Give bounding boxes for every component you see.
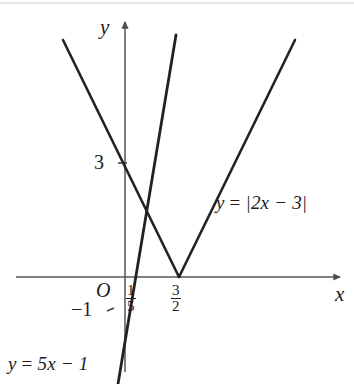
y-tick-label-minus-1: −1: [71, 299, 92, 319]
fraction-numerator: 3: [171, 283, 181, 298]
linear-curve-rhs: 5x − 1: [37, 353, 88, 374]
fraction-numerator: 1: [126, 283, 136, 298]
abs-curve-rhs: |2x − 3|: [245, 192, 307, 213]
fraction-three-halves: 3 2: [171, 283, 181, 315]
abs-curve-annotation: y = |2x − 3|: [216, 193, 307, 212]
linear-curve-annotation: y = 5x − 1: [8, 354, 88, 373]
linear-curve-5x-minus-1: [118, 35, 176, 384]
fraction-denominator: 5: [126, 298, 136, 314]
linear-curve-lhs: y: [8, 353, 17, 374]
abs-curve-lhs: y: [216, 192, 225, 213]
x-tick-label-three-halves: 3 2: [171, 283, 181, 315]
abs-curve-equals: =: [230, 192, 241, 213]
abs-curve-left-branch: [63, 40, 179, 277]
fraction-denominator: 2: [171, 298, 181, 314]
linear-curve-equals: =: [22, 353, 33, 374]
y-axis-label: y: [100, 17, 109, 38]
graph-figure: y x O 3 −1 1 5 3 2 y = |2x − 3| y = 5x −…: [0, 0, 354, 384]
y-tick-minus-1: [107, 308, 114, 311]
y-tick-label-3: 3: [94, 152, 104, 172]
abs-curve-right-branch: [179, 40, 295, 277]
x-axis-label: x: [335, 284, 344, 305]
fraction-one-fifth: 1 5: [126, 283, 136, 315]
origin-label: O: [96, 280, 110, 300]
x-tick-label-one-fifth: 1 5: [126, 283, 136, 315]
